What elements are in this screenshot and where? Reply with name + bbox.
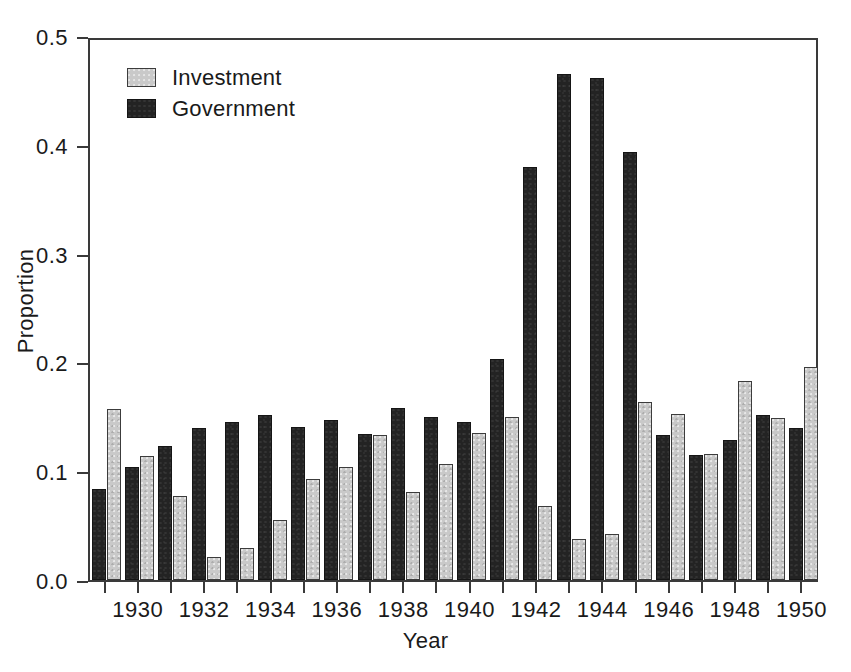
legend-swatch-inv	[127, 68, 156, 87]
x-tick-mark	[568, 582, 570, 593]
x-tick-mark	[668, 582, 670, 593]
bar-investment	[306, 479, 320, 580]
bar-investment	[638, 402, 652, 580]
x-tick-mark	[635, 582, 637, 593]
bar-investment	[406, 492, 420, 580]
bar-investment	[273, 520, 287, 580]
y-tick-mark	[77, 255, 88, 257]
legend-item-gov: Government	[127, 93, 295, 124]
bar-government	[258, 415, 272, 580]
y-tick-label: 0.2	[36, 351, 68, 377]
x-tick-label: 1950	[746, 596, 851, 624]
x-tick-mark	[203, 582, 205, 593]
x-tick-mark	[734, 582, 736, 593]
bar-government	[756, 415, 770, 580]
legend-item-inv: Investment	[127, 62, 295, 93]
x-tick-mark	[336, 582, 338, 593]
x-tick-mark	[170, 582, 172, 593]
y-tick-label: 0.5	[36, 25, 68, 51]
x-tick-mark	[369, 582, 371, 593]
bar-investment	[240, 548, 254, 580]
y-tick-label: 0.3	[36, 243, 68, 269]
y-tick-label: 0.4	[36, 134, 68, 160]
y-tick-mark	[77, 363, 88, 365]
x-tick-mark	[767, 582, 769, 593]
bar-chart-figure: 0.00.10.20.30.40.5 Proportion 1930193219…	[0, 0, 851, 672]
x-axis-title: Year	[0, 628, 851, 654]
y-tick-mark	[77, 146, 88, 148]
bar-investment	[804, 367, 818, 580]
y-tick-mark	[77, 581, 88, 583]
bar-government	[789, 428, 803, 580]
bar-investment	[173, 496, 187, 580]
bar-government	[125, 467, 139, 580]
bar-government	[490, 359, 504, 580]
bar-government	[656, 435, 670, 580]
x-tick-mark	[701, 582, 703, 593]
bar-investment	[671, 414, 685, 580]
bar-investment	[373, 435, 387, 580]
bar-government	[291, 427, 305, 580]
legend-label: Government	[172, 97, 295, 121]
y-axis-title: Proportion	[13, 61, 39, 541]
x-tick-mark	[435, 582, 437, 593]
bar-government	[723, 440, 737, 580]
bar-government	[424, 417, 438, 580]
x-tick-mark	[535, 582, 537, 593]
bar-investment	[472, 433, 486, 580]
bar-investment	[505, 417, 519, 580]
bar-investment	[207, 557, 221, 580]
bar-government	[689, 455, 703, 580]
x-tick-mark	[236, 582, 238, 593]
bar-investment	[704, 454, 718, 580]
bar-government	[557, 74, 571, 580]
bar-government	[324, 420, 338, 580]
x-tick-mark	[104, 582, 106, 593]
bar-investment	[572, 539, 586, 580]
x-tick-mark	[270, 582, 272, 593]
bar-investment	[339, 467, 353, 580]
bar-government	[590, 78, 604, 580]
x-tick-mark	[303, 582, 305, 593]
bar-government	[358, 434, 372, 580]
x-tick-mark	[137, 582, 139, 593]
bar-investment	[439, 464, 453, 580]
bar-investment	[738, 381, 752, 580]
bar-government	[225, 422, 239, 580]
bar-government	[523, 167, 537, 580]
x-tick-mark	[800, 582, 802, 593]
y-tick-mark	[77, 37, 88, 39]
legend: InvestmentGovernment	[127, 62, 295, 124]
bar-investment	[107, 409, 121, 580]
bar-investment	[140, 456, 154, 580]
bar-government	[192, 428, 206, 580]
bar-investment	[538, 506, 552, 580]
x-tick-mark	[502, 582, 504, 593]
y-tick-label: 0.1	[36, 460, 68, 486]
bar-investment	[771, 418, 785, 580]
legend-swatch-gov	[127, 99, 156, 118]
bar-government	[158, 446, 172, 580]
bar-government	[391, 408, 405, 580]
y-tick-label: 0.0	[36, 569, 68, 595]
y-tick-mark	[77, 472, 88, 474]
bar-government	[457, 422, 471, 580]
x-tick-mark	[402, 582, 404, 593]
legend-label: Investment	[172, 66, 282, 90]
bar-government	[92, 489, 106, 580]
bar-investment	[605, 534, 619, 580]
x-tick-mark	[469, 582, 471, 593]
x-tick-mark	[601, 582, 603, 593]
bar-government	[623, 152, 637, 580]
